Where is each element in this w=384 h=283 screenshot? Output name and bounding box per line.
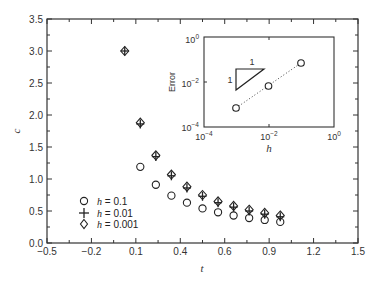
slope-run-label: 1 bbox=[249, 57, 254, 67]
legend-plus-icon bbox=[79, 208, 89, 218]
inset-ytick-1: 100 bbox=[185, 33, 199, 45]
legend-label-h0001: h = 0.001 bbox=[97, 219, 139, 230]
y-axis-label: c bbox=[10, 128, 22, 133]
y-tick-label: 1.0 bbox=[29, 174, 43, 185]
y-tick-label: 2.5 bbox=[29, 78, 43, 89]
y-tick-label: 3.5 bbox=[29, 14, 43, 25]
inset-chart: 100 10−2 10−4 10−4 10−2 100 h Error 1 1 bbox=[167, 33, 341, 154]
x-tick-label: 1.5 bbox=[351, 246, 365, 257]
legend: h = 0.1 h = 0.01 h = 0.001 bbox=[79, 196, 139, 230]
x-tick-label: 0.6 bbox=[218, 246, 232, 257]
data-point-circle bbox=[199, 205, 206, 212]
inset-xtick-1: 10−4 bbox=[195, 130, 213, 142]
data-point-circle bbox=[230, 212, 237, 219]
legend-circle-icon bbox=[80, 197, 87, 204]
x-tick-label: 0.1 bbox=[129, 246, 143, 257]
y-tick-label: 0.0 bbox=[29, 238, 43, 249]
x-tick-label: 0.9 bbox=[262, 246, 276, 257]
legend-label-h001: h = 0.01 bbox=[97, 208, 133, 219]
data-point-circle bbox=[183, 199, 190, 206]
x-tick-label: −0.2 bbox=[82, 246, 102, 257]
error-point bbox=[265, 83, 272, 90]
inset-ytick-2: 10−2 bbox=[182, 77, 200, 89]
error-point bbox=[233, 105, 240, 112]
slope-rise-label: 1 bbox=[227, 75, 232, 85]
x-tick-label: 1.2 bbox=[307, 246, 321, 257]
inset-frame bbox=[204, 37, 334, 127]
inset-xtick-3: 100 bbox=[327, 130, 341, 142]
data-point-circle bbox=[168, 192, 175, 199]
x-axis-label: t bbox=[200, 262, 204, 274]
data-point-circle bbox=[214, 209, 221, 216]
inset-xtick-2: 10−2 bbox=[260, 130, 278, 142]
y-tick-label: 1.5 bbox=[29, 142, 43, 153]
y-tick-label: 0.5 bbox=[29, 206, 43, 217]
legend-label-h01: h = 0.1 bbox=[97, 196, 128, 207]
y-tick-label: 3.0 bbox=[29, 46, 43, 57]
y-tick-label: 2.0 bbox=[29, 110, 43, 121]
inset-x-axis-label: h bbox=[266, 142, 272, 154]
inset-y-axis-label: Error bbox=[167, 72, 177, 92]
x-tick-label: 0.4 bbox=[173, 246, 187, 257]
legend-diamond-icon bbox=[81, 220, 88, 229]
error-point bbox=[298, 60, 305, 67]
chart-canvas: −0.5−0.20.10.40.60.91.21.50.00.51.01.52.… bbox=[0, 0, 384, 283]
data-point-circle bbox=[137, 163, 144, 170]
data-point-circle bbox=[152, 181, 159, 188]
data-point-circle bbox=[246, 214, 253, 221]
